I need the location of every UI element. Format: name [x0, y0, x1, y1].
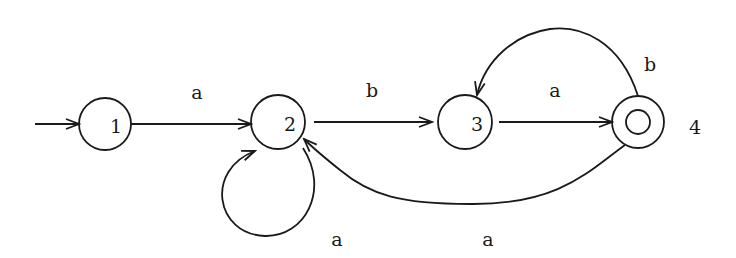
transition-4-3-label: b [644, 53, 656, 75]
state-4 [612, 96, 664, 148]
state-3-label: 3 [471, 113, 483, 135]
transition-2-2-loop [222, 148, 314, 236]
state-1: 1 [79, 98, 131, 150]
transition-4-2-label: a [482, 228, 493, 250]
transition-3-4-label: a [549, 79, 560, 101]
state-2-label: 2 [284, 113, 296, 135]
state-4-label: 4 [689, 116, 701, 138]
accepting-marker [626, 110, 650, 134]
state-1-label: 1 [110, 115, 122, 137]
transition-1-2-label: a [191, 81, 202, 103]
state-2: 2 [251, 95, 305, 149]
transition-2-3-label: b [366, 79, 378, 101]
state-3: 3 [438, 95, 492, 149]
transition-2-2-label: a [331, 228, 342, 250]
automaton-diagram: 1 2 3 4 a b a b a a [0, 0, 736, 258]
